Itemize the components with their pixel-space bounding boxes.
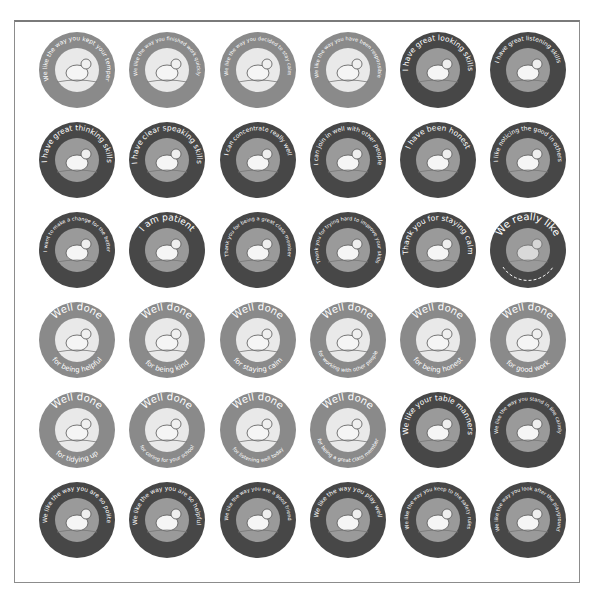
sticker-r3c2[interactable]: I am patient (128, 211, 206, 289)
sticker-r4c4[interactable]: Well donefor working with other people (309, 301, 387, 379)
sticker-r2c3[interactable]: I can concentrate really well (219, 121, 297, 199)
sticker-r3c5[interactable]: Thank you for staying calm (399, 211, 477, 289)
sticker-r4c6[interactable]: Well donefor good work (489, 301, 567, 379)
sticker-r2c6[interactable]: I like noticing the good in others (489, 121, 567, 199)
sticker-r1c5[interactable]: I have great looking skills (399, 31, 477, 109)
sticker-r2c1[interactable]: I have great thinking skills (38, 121, 116, 199)
sticker-r3c1[interactable]: I want to make a change for the better (38, 211, 116, 289)
sticker-r4c2[interactable]: Well donefor being kind (128, 301, 206, 379)
sticker-r3c3[interactable]: Thank you for being a great class member (219, 211, 297, 289)
sticker-r1c1[interactable]: We like the way you kept your temper (38, 31, 116, 109)
sticker-r5c5[interactable]: We like your table manners (399, 391, 477, 469)
sticker-grid: We like the way you kept your temperWe l… (15, 22, 579, 582)
sticker-r6c5[interactable]: We like the way you keep to the safety r… (399, 481, 477, 559)
sticker-r1c2[interactable]: We like the way you finished work quickl… (128, 31, 206, 109)
sticker-r2c4[interactable]: I can join in well with other people (309, 121, 387, 199)
sticker-r4c1[interactable]: Well donefor being helpful (38, 301, 116, 379)
sticker-r3c4[interactable]: Thank you for trying hard to improve you… (309, 211, 387, 289)
sticker-r5c2[interactable]: Well donefor caring for your school (128, 391, 206, 469)
sticker-r5c3[interactable]: Well donefor listening well today (219, 391, 297, 469)
sticker-r6c3[interactable]: We like the way you are a good friend (219, 481, 297, 559)
sticker-r1c4[interactable]: We like the way you have been responsibl… (309, 31, 387, 109)
sticker-r4c3[interactable]: Well donefor staying calm (219, 301, 297, 379)
sticker-r1c6[interactable]: I have great listening skills (489, 31, 567, 109)
sticker-r6c4[interactable]: We like the way you play well (309, 481, 387, 559)
sticker-r6c2[interactable]: We like the way you are so helpful (128, 481, 206, 559)
sticker-r5c4[interactable]: Well donefor being a great class member (309, 391, 387, 469)
sticker-r3c6[interactable]: We really like (489, 211, 567, 289)
sticker-r2c2[interactable]: I have clear speaking skills (128, 121, 206, 199)
sticker-r4c5[interactable]: Well donefor being honest (399, 301, 477, 379)
sticker-r6c1[interactable]: We like the way you are so polite (38, 481, 116, 559)
sticker-r6c6[interactable]: We like the way you look after the playg… (489, 481, 567, 559)
sticker-r5c1[interactable]: Well donefor tidying up (38, 391, 116, 469)
sticker-r1c3[interactable]: We like the way you decided to stay calm (219, 31, 297, 109)
sticker-sheet: We like the way you kept your temperWe l… (14, 20, 580, 583)
sticker-r2c5[interactable]: I have been honest (399, 121, 477, 199)
sticker-r5c6[interactable]: We like the way you stand in line calmly (489, 391, 567, 469)
